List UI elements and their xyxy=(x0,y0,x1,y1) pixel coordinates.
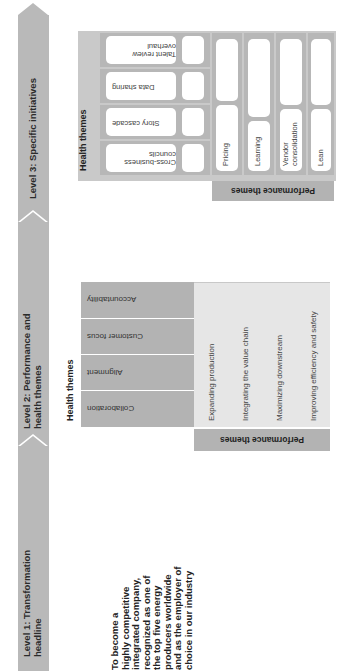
l2-health-alignment: Alignment xyxy=(81,355,194,390)
l2-performance-themes-label: Performance themes xyxy=(194,429,330,451)
l3-perf-learning: Learning xyxy=(244,33,274,175)
l3-perf-lean: Lean xyxy=(308,33,334,175)
level-2-label-sub: health themes xyxy=(32,313,43,429)
l3-perf-pricing: Pricing xyxy=(212,33,242,175)
l2-health-collaboration: Collaboration xyxy=(81,391,194,427)
level-1-label-sub: headline xyxy=(32,550,43,657)
l2-perf-improving-efficiency: Improving efficiency and safety xyxy=(296,282,330,427)
l2-health-customer-focus: Customer focus xyxy=(81,319,194,354)
chevron-divider-fill xyxy=(18,212,48,224)
level-2-label: Level 2: Performance and xyxy=(21,313,32,429)
l2-perf-expanding-production: Expanding production xyxy=(194,282,228,427)
level-1-segment: Level 1: Transformation headline xyxy=(18,446,49,671)
level-arrow-band: Level 1: Transformation headline Level 2… xyxy=(18,15,49,671)
l3-health-data-sharing: Data sharing xyxy=(100,69,210,103)
level-3-label: Level 3: Specific initiatives xyxy=(27,78,38,199)
l3-health-cross-business-councils: Cross-business councils xyxy=(100,141,210,175)
arrow-tip-icon xyxy=(18,3,48,15)
l2-perf-integrating-value-chain: Integrating the value chain xyxy=(228,282,262,427)
transformation-headline: To become a highly competitive integrate… xyxy=(110,530,194,670)
l2-health-themes-label: Health themes xyxy=(65,359,75,421)
level-3-segment: Level 3: Specific initiatives xyxy=(18,21,49,211)
level-2-segment: Level 2: Performance and health themes xyxy=(18,225,49,435)
l3-health-story-cascade: Story cascade xyxy=(100,105,210,139)
l3-perf-vendor-consolidation: Vendor consolidation xyxy=(276,33,306,175)
l3-health-talent-review-overhaul: Talent review overhaul xyxy=(100,33,210,67)
chevron-divider-fill xyxy=(18,436,48,448)
l2-health-accountability: Accountability xyxy=(81,282,194,318)
l2-perf-maximizing-downstream: Maximizing downstream xyxy=(262,282,296,427)
diagram-stage: Level 1: Transformation headline Level 2… xyxy=(0,0,337,671)
level-1-label: Level 1: Transformation xyxy=(21,550,32,657)
l3-performance-themes-label: Performance themes xyxy=(212,181,334,201)
l3-health-themes-label: Health themes xyxy=(78,109,88,171)
